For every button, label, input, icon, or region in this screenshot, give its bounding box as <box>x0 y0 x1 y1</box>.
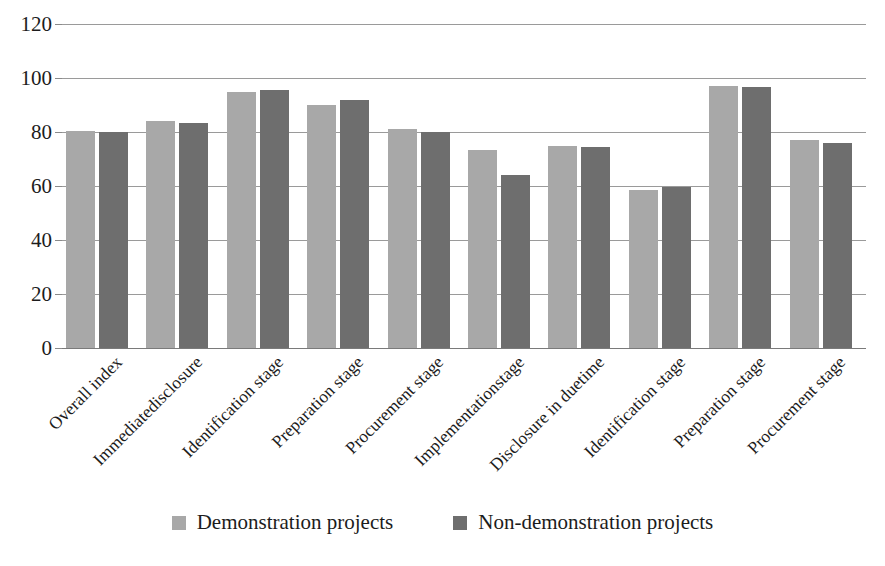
bar-chart: 120100806040200 Overall indexImmediatedi… <box>0 0 885 566</box>
bar-non-demonstration <box>501 175 530 348</box>
bar-group <box>786 24 866 348</box>
bar-non-demonstration <box>179 123 208 348</box>
y-axis-tick-label: 60 <box>0 176 52 197</box>
y-axis-tick-label: 120 <box>0 14 52 35</box>
bar-demonstration <box>66 131 95 348</box>
bar-non-demonstration <box>581 147 610 348</box>
bar-demonstration <box>388 129 417 348</box>
bar-demonstration <box>146 121 175 348</box>
y-axis-tick <box>55 294 62 295</box>
x-axis-tick-labels: Overall indexImmediatedisclosureIdentifi… <box>62 352 866 502</box>
legend-item[interactable]: Non-demonstration projects <box>453 512 713 533</box>
legend-label: Demonstration projects <box>197 512 394 533</box>
y-axis-tick <box>55 24 62 25</box>
bar-non-demonstration <box>662 187 691 348</box>
bar-demonstration <box>790 140 819 348</box>
bar-group <box>223 24 303 348</box>
y-axis-tick <box>55 186 62 187</box>
bars-layer <box>62 24 866 348</box>
x-axis-tick-label-text: Overall index <box>44 352 127 435</box>
y-axis-tick <box>55 348 62 349</box>
y-axis-tick-label: 100 <box>0 68 52 89</box>
x-axis-tick-label: Overall index <box>44 352 127 435</box>
bar-group <box>705 24 785 348</box>
bar-group <box>62 24 142 348</box>
bar-group <box>303 24 383 348</box>
legend-swatch-icon <box>172 516 186 530</box>
y-axis-tick-label: 80 <box>0 122 52 143</box>
bar-non-demonstration <box>421 132 450 348</box>
bar-non-demonstration <box>742 87 771 348</box>
bar-demonstration <box>468 150 497 348</box>
y-axis-tick-label: 40 <box>0 230 52 251</box>
chart-legend: Demonstration projectsNon-demonstration … <box>0 512 885 533</box>
bar-group <box>384 24 464 348</box>
bar-demonstration <box>548 146 577 349</box>
bar-non-demonstration <box>340 100 369 348</box>
bar-group <box>142 24 222 348</box>
legend-swatch-icon <box>453 516 467 530</box>
bar-demonstration <box>709 86 738 348</box>
legend-item[interactable]: Demonstration projects <box>172 512 394 533</box>
bar-group <box>464 24 544 348</box>
y-axis-tick <box>55 132 62 133</box>
bar-group <box>625 24 705 348</box>
bar-demonstration <box>227 92 256 349</box>
x-axis-line <box>62 348 866 349</box>
bar-non-demonstration <box>823 143 852 348</box>
bar-non-demonstration <box>99 132 128 348</box>
y-axis-tick-label: 20 <box>0 284 52 305</box>
y-axis-tick-label: 0 <box>0 338 52 359</box>
bar-non-demonstration <box>260 90 289 348</box>
y-axis-tick <box>55 78 62 79</box>
bar-demonstration <box>307 105 336 348</box>
bar-group <box>544 24 624 348</box>
bar-demonstration <box>629 190 658 348</box>
y-axis-tick <box>55 240 62 241</box>
y-axis-tick-labels: 120100806040200 <box>0 24 52 348</box>
legend-label: Non-demonstration projects <box>478 512 713 533</box>
